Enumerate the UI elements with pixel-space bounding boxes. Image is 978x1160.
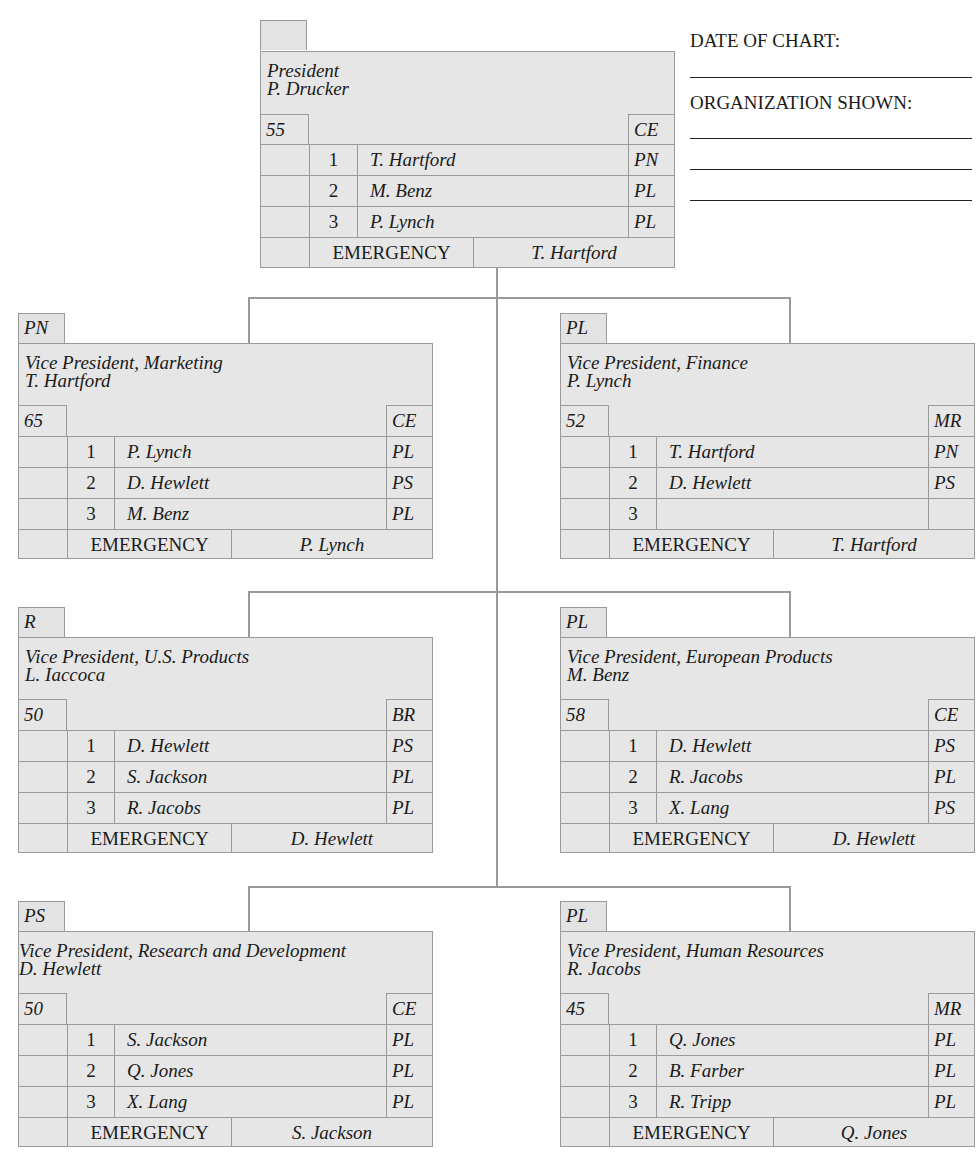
position-card-rnd: PS Vice President, Research and Developm… [18,901,433,1147]
position-title: Vice President, U.S. Products L. Iaccoca [25,648,249,684]
successor-code: PN [628,145,674,175]
successor-rank: 2 [67,1056,114,1086]
position-box: Vice President, Human Resources R. Jacob… [560,931,975,1147]
emergency-row: EMERGENCY D. Hewlett [19,823,432,853]
successor-name: D. Hewlett [114,731,386,761]
successor-name: D. Hewlett [656,468,928,498]
successor-name: M. Benz [357,176,628,206]
successor-rank: 1 [609,1025,656,1055]
successor-code: PL [928,1025,974,1055]
position-code-tab: PL [560,901,607,931]
successor-rank: 3 [309,207,357,237]
successor-code: PL [386,437,432,467]
emergency-row: EMERGENCY P. Lynch [19,529,432,559]
successor-name: D. Hewlett [114,468,386,498]
successor-row: 3 P. Lynch PL [261,206,674,237]
readiness-code: CE [386,993,432,1024]
successor-code: PL [386,762,432,792]
incumbent-name: D. Hewlett [19,960,346,978]
successor-rank: 3 [609,1087,656,1117]
emergency-row: EMERGENCY S. Jackson [19,1117,432,1147]
successor-code: PL [928,1056,974,1086]
successor-name: R. Jacobs [114,793,386,823]
successor-code: PS [928,468,974,498]
incumbent-age: 50 [19,993,67,1024]
connector-trunk [496,267,498,888]
readiness-code: MR [928,405,974,436]
successor-code: PS [386,731,432,761]
successor-code [928,499,974,529]
emergency-successor: P. Lynch [231,530,432,559]
connector-row-2 [248,591,791,593]
incumbent-name: P. Drucker [267,80,349,98]
successor-row: 2 Q. Jones PL [19,1055,432,1086]
successor-row: 1 S. Jackson PL [19,1024,432,1055]
organization-shown-field-1[interactable] [690,138,972,139]
successor-code: PL [386,499,432,529]
successor-row: 2 D. Hewlett PS [19,467,432,498]
successor-rank: 3 [67,793,114,823]
position-card-human-resources: PL Vice President, Human Resources R. Ja… [560,901,975,1147]
position-card-marketing: PN Vice President, Marketing T. Hartford… [18,313,433,559]
successor-name: S. Jackson [114,762,386,792]
position-box: Vice President, European Products M. Ben… [560,637,975,853]
successor-name: R. Jacobs [656,762,928,792]
successor-rank: 1 [67,437,114,467]
incumbent-age: 52 [561,405,609,436]
successor-rank: 3 [67,1087,114,1117]
incumbent-name: P. Lynch [567,372,748,390]
emergency-successor: T. Hartford [473,238,674,268]
successor-row: 1 Q. Jones PL [561,1024,974,1055]
successor-name: S. Jackson [114,1025,386,1055]
successor-row: 3 X. Lang PS [561,792,974,823]
successor-name: T. Hartford [656,437,928,467]
position-code-tab: PL [560,313,607,343]
successor-code: PL [928,762,974,792]
position-title: Vice President, Research and Development… [19,942,346,978]
successor-rank: 2 [309,176,357,206]
emergency-label: EMERGENCY [609,530,773,559]
position-box: Vice President, Finance P. Lynch 52 MR 1… [560,343,975,559]
emergency-label: EMERGENCY [67,824,231,853]
successor-rank: 1 [67,1025,114,1055]
emergency-label: EMERGENCY [609,824,773,853]
readiness-code: BR [386,699,432,730]
successor-rank: 1 [609,437,656,467]
incumbent-age: 50 [19,699,67,730]
incumbent-name: T. Hartford [25,372,223,390]
successor-code: PS [928,731,974,761]
successor-rank: 3 [67,499,114,529]
connector-row-1 [248,297,791,299]
successor-row: 3 R. Tripp PL [561,1086,974,1117]
successor-row: 2 R. Jacobs PL [561,761,974,792]
age-row: 50 BR [19,699,432,730]
position-title: Vice President, European Products M. Ben… [567,648,833,684]
successor-rank: 1 [309,145,357,175]
position-card-european-products: PL Vice President, European Products M. … [560,607,975,853]
readiness-code: CE [928,699,974,730]
organization-shown-field-2[interactable] [690,169,972,170]
readiness-code: MR [928,993,974,1024]
successor-code: PN [928,437,974,467]
position-box: Vice President, U.S. Products L. Iaccoca… [18,637,433,853]
successor-rank: 3 [609,793,656,823]
position-card-us-products: R Vice President, U.S. Products L. Iacco… [18,607,433,853]
successor-name: Q. Jones [114,1056,386,1086]
date-of-chart-field[interactable] [690,77,972,78]
emergency-successor: S. Jackson [231,1118,432,1147]
successor-name [656,499,928,529]
position-code-tab: PN [18,313,65,343]
successor-name: T. Hartford [357,145,628,175]
organization-shown-field-3[interactable] [690,200,972,201]
successor-code: PL [928,1087,974,1117]
emergency-label: EMERGENCY [309,238,473,268]
emergency-successor: D. Hewlett [231,824,432,853]
successor-rank: 1 [67,731,114,761]
readiness-code: CE [628,114,674,145]
emergency-label: EMERGENCY [609,1118,773,1147]
successor-row: 3 X. Lang PL [19,1086,432,1117]
successor-row: 3 R. Jacobs PL [19,792,432,823]
readiness-code: CE [386,405,432,436]
successor-rank: 3 [609,499,656,529]
age-row: 52 MR [561,405,974,436]
